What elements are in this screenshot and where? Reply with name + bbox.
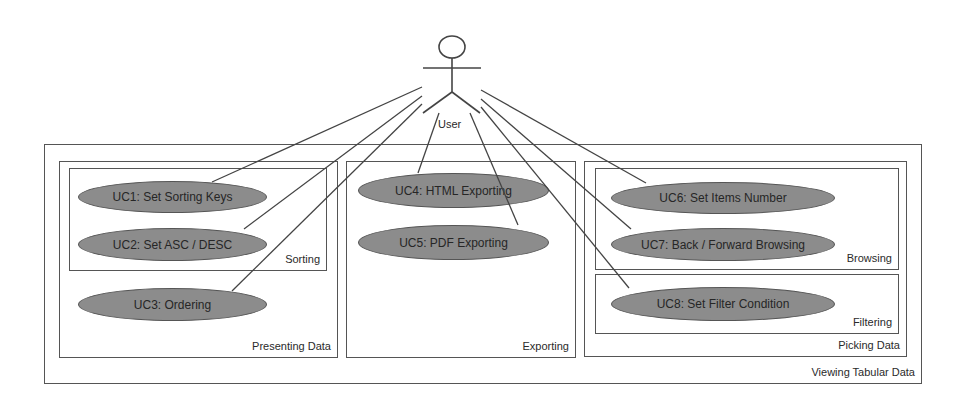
association-uc2 (244, 96, 422, 229)
association-uc5 (470, 113, 518, 225)
association-uc8 (481, 107, 629, 288)
use-case-diagram: Viewing Tabular Data Presenting Data Sor… (0, 0, 966, 403)
association-uc7 (481, 99, 631, 229)
association-lines (212, 87, 646, 291)
actor-user-icon[interactable] (423, 36, 481, 113)
association-uc3 (232, 104, 422, 291)
association-uc4 (418, 113, 439, 173)
actor-and-associations (0, 0, 966, 403)
actor-label: User (438, 118, 461, 130)
